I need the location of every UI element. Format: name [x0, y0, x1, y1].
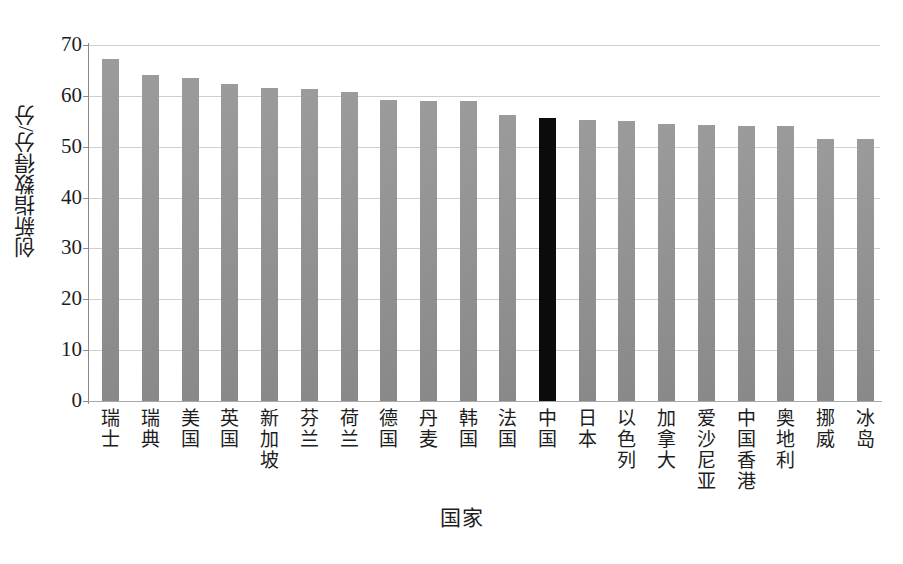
bar [658, 124, 675, 401]
x-axis-tick-label: 法国 [495, 408, 521, 450]
x-axis-tick-label: 日本 [574, 408, 600, 450]
bar [579, 120, 596, 401]
y-axis-tick-label: 50 [36, 136, 82, 157]
plot-area [88, 45, 882, 402]
x-axis-tick-label: 德国 [376, 408, 402, 450]
bar [460, 101, 477, 401]
bar [499, 115, 516, 401]
bar [182, 78, 199, 401]
bar [539, 118, 556, 401]
y-axis-tick-label: 40 [36, 187, 82, 208]
bar [380, 100, 397, 401]
x-axis-tick-labels: 瑞士瑞典美国英国新加坡芬兰荷兰德国丹麦韩国法国中国日本以色列加拿大爱沙尼亚中国香… [88, 408, 882, 508]
bar [142, 75, 159, 402]
y-axis-tick-label: 20 [36, 288, 82, 309]
x-axis-tick-label: 奥地利 [773, 408, 799, 471]
bar [817, 139, 834, 401]
y-axis-tick-label: 70 [36, 34, 82, 55]
x-axis-tick-label: 荷兰 [336, 408, 362, 450]
x-axis-tick-label: 爱沙尼亚 [693, 408, 719, 492]
y-axis-tick-label: 10 [36, 339, 82, 360]
bar [102, 59, 119, 401]
bar [618, 121, 635, 401]
x-axis-tick-label: 瑞士 [98, 408, 124, 450]
x-axis-tick-label: 加拿大 [654, 408, 680, 471]
y-axis-tick-label: 0 [36, 390, 82, 411]
bar [738, 126, 755, 401]
x-axis-tick-label: 新加坡 [257, 408, 283, 471]
x-axis-tick-label: 中国香港 [733, 408, 759, 492]
x-axis-tick-label: 美国 [177, 408, 203, 450]
x-axis-tick-label: 以色列 [614, 408, 640, 471]
x-axis-tick-label: 韩国 [455, 408, 481, 450]
bar [698, 125, 715, 401]
y-axis-tick-labels: 010203040506070 [36, 45, 82, 406]
x-axis-tick-label: 丹麦 [415, 408, 441, 450]
x-axis-tick-label: 冰岛 [852, 408, 878, 450]
x-axis-tick-label: 英国 [217, 408, 243, 450]
bars-layer [88, 45, 882, 402]
bar [857, 139, 874, 401]
x-axis-tick-label: 芬兰 [296, 408, 322, 450]
bar [221, 84, 238, 401]
x-axis-tick-label: 挪威 [812, 408, 838, 450]
x-axis-tick-label: 瑞典 [138, 408, 164, 450]
bar [341, 92, 358, 401]
bar [301, 89, 318, 401]
y-axis-tick-label: 60 [36, 85, 82, 106]
x-axis-tick-label: 中国 [535, 408, 561, 450]
x-axis-title: 国家 [0, 506, 903, 530]
bar [777, 126, 794, 401]
bar [261, 88, 278, 401]
bar [420, 101, 437, 401]
y-axis-tick-label: 30 [36, 237, 82, 258]
bar-chart: 创新指数得分/分 010203040506070 瑞士瑞典美国英国新加坡芬兰荷兰… [0, 0, 903, 564]
